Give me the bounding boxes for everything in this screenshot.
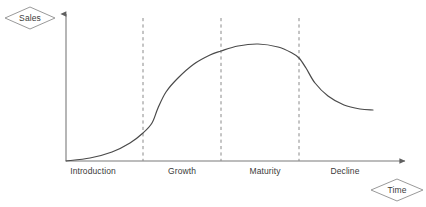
sales-curve xyxy=(66,44,373,161)
stage-label-introduction: Introduction xyxy=(70,166,116,176)
x-axis-label-text: Time xyxy=(388,185,407,195)
y-axis-label-text: Sales xyxy=(19,13,41,23)
stage-label-decline: Decline xyxy=(330,166,359,176)
stage-label-maturity: Maturity xyxy=(249,166,280,176)
x-axis-label-tag: Time xyxy=(370,178,424,202)
stage-label-growth: Growth xyxy=(168,166,196,176)
product-life-cycle-diagram: Sales Time Introduction Growth Maturity … xyxy=(0,0,426,207)
y-axis-label-tag: Sales xyxy=(4,6,56,30)
chart-canvas xyxy=(0,0,426,207)
